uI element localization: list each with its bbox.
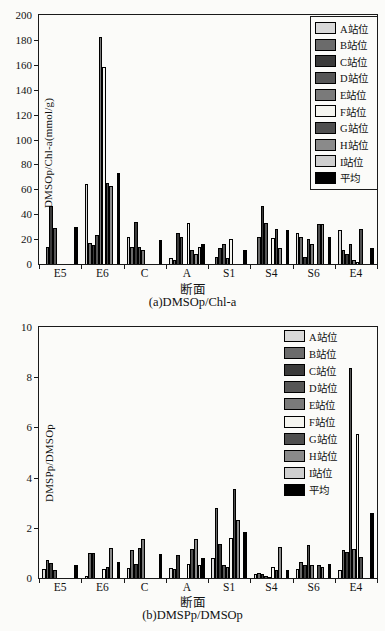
legend-label: H站位 <box>309 448 337 463</box>
bar-平均-E4 <box>370 513 374 578</box>
legend-entry-B站位: B站位 <box>315 38 377 52</box>
legend-swatch-I站位 <box>315 155 336 167</box>
legend-swatch-A站位 <box>284 330 305 342</box>
legend-label: G站位 <box>340 120 368 135</box>
bar-平均-A <box>201 244 205 264</box>
legend-swatch-H站位 <box>284 450 305 462</box>
x-tick-mark <box>250 578 251 583</box>
x-category-label-A: A <box>183 267 191 279</box>
x-tick-mark <box>166 578 167 583</box>
x-tick-mark <box>39 264 40 269</box>
legend-label: I站位 <box>309 465 333 480</box>
legend-entry-A站位: A站位 <box>284 329 354 343</box>
bar-平均-E5 <box>74 565 78 578</box>
chart-dmspp-dmsop: DMSPp/DMSOp 0246810E5E6CAS1S4S6E4A站位B站位C… <box>0 315 385 631</box>
legend-entry-A站位: A站位 <box>315 21 377 35</box>
y-tick-mark <box>34 140 39 141</box>
y-tick-mark <box>34 115 39 116</box>
legend-entry-平均: 平均 <box>284 483 354 497</box>
x-category-label-S6: S6 <box>308 267 320 279</box>
bar-H站位-S1 <box>236 520 240 578</box>
legend-entry-H站位: H站位 <box>315 138 377 152</box>
legend-label: F站位 <box>309 414 335 429</box>
y-tick-mark <box>34 40 39 41</box>
bar-G站位-E4 <box>359 229 363 264</box>
bar-C站位-E6 <box>92 553 96 578</box>
y-tick-mark <box>34 528 39 529</box>
x-tick-mark <box>377 578 378 583</box>
y-tick-mark <box>34 65 39 66</box>
chart-a-caption: (a)DMSOp/Chl-a <box>0 295 385 310</box>
chart-b-y-axis-label: DMSPp/DMSOp <box>43 398 55 528</box>
y-tick-label: 160 <box>16 59 33 71</box>
bar-平均-C <box>159 240 163 264</box>
legend-entry-D站位: D站位 <box>315 71 377 85</box>
x-tick-mark <box>335 264 336 269</box>
bar-平均-E4 <box>370 248 374 264</box>
legend-entry-D站位: D站位 <box>284 380 354 394</box>
x-tick-mark <box>124 264 125 269</box>
legend-label: I站位 <box>340 154 364 169</box>
bar-E站位-C <box>141 539 145 578</box>
y-tick-label: 140 <box>16 84 33 96</box>
x-tick-mark <box>208 264 209 269</box>
legend-label: F站位 <box>340 104 366 119</box>
y-tick-label: 80 <box>21 158 32 170</box>
legend-label: G站位 <box>309 431 337 446</box>
x-category-label-E5: E5 <box>54 267 67 279</box>
legend-label: 平均 <box>309 482 329 497</box>
chart-b-plot-area: DMSPp/DMSOp 0246810E5E6CAS1S4S6E4A站位B站位C… <box>38 326 378 579</box>
legend-swatch-G站位 <box>315 122 336 134</box>
chart-b-caption: (b)DMSPp/DMSOp <box>0 608 385 623</box>
legend-entry-B站位: B站位 <box>284 346 354 360</box>
x-tick-mark <box>250 264 251 269</box>
legend-label: H站位 <box>340 137 368 152</box>
legend-swatch-I站位 <box>284 467 305 479</box>
legend-label: C站位 <box>340 54 367 69</box>
legend-swatch-B站位 <box>284 347 305 359</box>
chart-a-plot-area: DMSOp/Chl-a(mmol/g) 02040608010012014016… <box>38 14 378 265</box>
y-tick-label: 2 <box>27 522 33 534</box>
x-category-label-E4: E4 <box>349 267 362 279</box>
y-tick-mark <box>34 164 39 165</box>
y-tick-mark <box>34 478 39 479</box>
legend-swatch-D站位 <box>284 381 305 393</box>
legend-entry-I站位: I站位 <box>315 154 377 168</box>
bar-平均-E6 <box>117 173 121 264</box>
bar-H站位-S6 <box>321 224 325 264</box>
legend-swatch-D站位 <box>315 72 336 84</box>
legend-swatch-A站位 <box>315 22 336 34</box>
chart-dmsop-chla: DMSOp/Chl-a(mmol/g) 02040608010012014016… <box>0 0 385 315</box>
y-tick-label: 4 <box>27 472 33 484</box>
y-tick-label: 120 <box>16 109 33 121</box>
legend-entry-G站位: G站位 <box>284 432 354 446</box>
bar-G站位-E4 <box>359 557 363 578</box>
y-tick-label: 0 <box>27 572 33 584</box>
legend-label: B站位 <box>340 37 367 52</box>
x-tick-mark <box>335 578 336 583</box>
bar-H站位-S4 <box>278 547 282 578</box>
legend-entry-F站位: F站位 <box>284 415 354 429</box>
legend-label: E站位 <box>309 397 335 412</box>
x-tick-mark <box>208 578 209 583</box>
x-category-label-E6: E6 <box>96 267 109 279</box>
y-tick-label: 100 <box>16 134 33 146</box>
legend-entry-C站位: C站位 <box>315 54 377 68</box>
bar-平均-S6 <box>328 237 332 264</box>
legend-entry-I站位: I站位 <box>284 466 354 480</box>
x-tick-mark <box>377 264 378 269</box>
legend-label: D站位 <box>309 380 337 395</box>
legend-swatch-E站位 <box>315 89 336 101</box>
bar-E站位-S6 <box>310 565 314 578</box>
legend-entry-E站位: E站位 <box>284 397 354 411</box>
bar-E站位-S6 <box>310 244 314 264</box>
legend-entry-E站位: E站位 <box>315 88 377 102</box>
bar-平均-C <box>159 554 163 578</box>
legend-swatch-F站位 <box>284 416 305 428</box>
bar-D站位-A <box>180 237 184 264</box>
y-tick-mark <box>34 427 39 428</box>
legend-swatch-平均 <box>315 172 336 184</box>
y-tick-label: 200 <box>16 9 33 21</box>
legend-entry-平均: 平均 <box>315 171 377 185</box>
x-tick-mark <box>39 578 40 583</box>
